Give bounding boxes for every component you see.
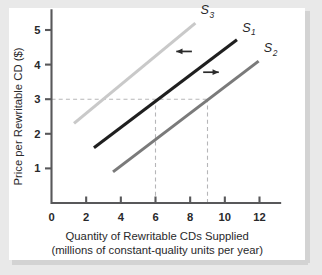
y-axis-tick-label: 5 — [34, 24, 40, 36]
y-axis-title: Price per Rewritable CD ($) — [12, 47, 24, 185]
supply-curve-label-S2: S2 — [264, 41, 278, 57]
supply-curve-label-S3: S3 — [201, 3, 215, 19]
x-axis-title: Quantity of Rewritable CDs Supplied — [66, 230, 249, 242]
y-axis-tick-label: 2 — [34, 128, 40, 140]
x-axis-tick-label: 12 — [253, 211, 265, 223]
chart-svg: 12345024681012S3S1S2Quantity of Rewritab… — [0, 0, 322, 275]
image-frame: 12345024681012S3S1S2Quantity of Rewritab… — [0, 0, 322, 275]
x-axis-tick-label: 8 — [187, 211, 193, 223]
leftward-shift-arrow-head — [176, 49, 182, 55]
supply-curve-label-S1: S1 — [242, 21, 256, 37]
y-axis-tick-label: 4 — [34, 59, 41, 71]
x-axis-title-line2: (millions of constant-quality units per … — [51, 244, 263, 256]
chart-axes — [52, 9, 282, 203]
x-axis-tick-label: 4 — [118, 211, 125, 223]
x-axis-tick-label: 6 — [152, 211, 158, 223]
x-axis-tick-label: 10 — [219, 211, 231, 223]
rightward-shift-arrow-head — [213, 69, 219, 75]
x-axis-tick-label: 0 — [48, 211, 54, 223]
supply-curve-chart: 12345024681012S3S1S2Quantity of Rewritab… — [0, 0, 322, 275]
x-axis-tick-label: 2 — [83, 211, 89, 223]
y-axis-tick-label: 3 — [34, 93, 40, 105]
supply-curve-S3 — [74, 23, 195, 123]
y-axis-tick-label: 1 — [34, 162, 40, 174]
